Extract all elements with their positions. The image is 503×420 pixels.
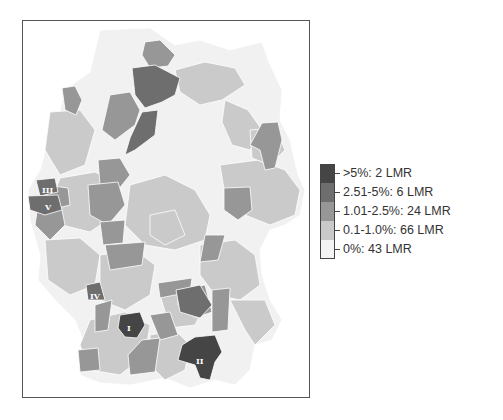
legend-tick — [335, 192, 340, 193]
legend-tick — [335, 230, 340, 231]
legend-swatch-gt5 — [320, 164, 335, 183]
region-label-V: V — [44, 202, 52, 212]
region-medium — [212, 288, 230, 332]
legend-item: 0.1-1.0%: 66 LMR — [320, 221, 500, 240]
legend-swatch-1-2-5 — [320, 202, 335, 221]
region-label-III: III — [42, 185, 53, 195]
region-medium — [78, 348, 100, 372]
legend-swatch-2-5 — [320, 183, 335, 202]
legend-item: 1.01-2.5%: 24 LMR — [320, 202, 500, 221]
legend-label: >5%: 2 LMR — [343, 166, 412, 181]
legend-item: >5%: 2 LMR — [320, 164, 500, 183]
legend-label: 0.1-1.0%: 66 LMR — [343, 223, 444, 238]
region-label-I: I — [127, 323, 131, 333]
legend-item: 2.51-5%: 6 LMR — [320, 183, 500, 202]
legend-label: 0%: 43 LMR — [343, 242, 412, 257]
legend-swatch-0-1 — [320, 221, 335, 240]
legend-label: 1.01-2.5%: 24 LMR — [343, 204, 451, 219]
legend-tick — [335, 173, 340, 174]
region-label-II: II — [196, 356, 204, 366]
legend-label: 2.51-5%: 6 LMR — [343, 185, 433, 200]
region-label-IV: IV — [90, 291, 101, 301]
legend: >5%: 2 LMR 2.51-5%: 6 LMR 1.01-2.5%: 24 … — [320, 164, 500, 259]
region-medium — [105, 242, 145, 270]
legend-tick — [335, 249, 340, 250]
legend-swatch-zero — [320, 240, 335, 259]
legend-item: 0%: 43 LMR — [320, 240, 500, 259]
legend-tick — [335, 211, 340, 212]
region-medium — [100, 220, 125, 245]
